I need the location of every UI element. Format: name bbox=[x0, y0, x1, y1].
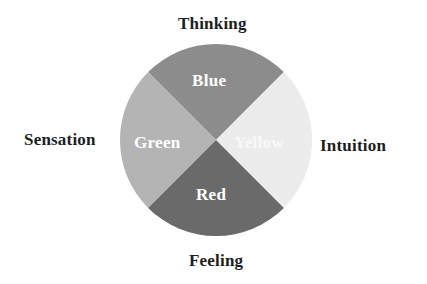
quadrant-label-green: Green bbox=[134, 133, 181, 153]
quadrant-label-red: Red bbox=[196, 185, 226, 205]
color-wheel bbox=[0, 0, 427, 284]
quadrant-label-yellow: Yellow bbox=[234, 133, 284, 153]
quadrant-label-blue: Blue bbox=[192, 71, 226, 91]
